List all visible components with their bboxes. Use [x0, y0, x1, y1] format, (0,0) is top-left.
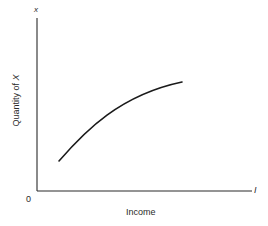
- engel-curve: [59, 82, 182, 161]
- x-axis-title: Income: [126, 208, 156, 217]
- y-axis-title: Quantity of X: [12, 69, 21, 133]
- y-axis-title-variable: X: [11, 74, 21, 80]
- x-axis-end-label: I: [254, 186, 257, 195]
- y-axis-end-label: x: [34, 6, 38, 14]
- chart-canvas: [0, 0, 268, 226]
- y-axis-title-prefix: Quantity of: [11, 81, 21, 127]
- origin-label: 0: [26, 195, 31, 204]
